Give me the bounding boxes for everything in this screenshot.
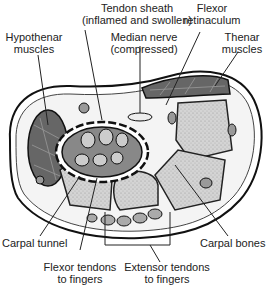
label-carpal-bones: Carpal bones — [200, 237, 265, 249]
label-flexor-retinaculum: Flexor retinaculum — [172, 2, 252, 26]
label-hypothenar-muscles: Hypothenar muscles — [2, 31, 66, 55]
label-median-nerve: Median nerve (compressed) — [104, 31, 184, 55]
label-extensor-tendons: Extensor tendons to fingers — [122, 261, 212, 285]
label-carpal-tunnel: Carpal tunnel — [2, 237, 67, 249]
label-thenar-muscles: Thenar muscles — [218, 31, 266, 55]
median-nerve — [128, 113, 152, 121]
label-flexor-tendons: Flexor tendons to fingers — [40, 261, 120, 285]
